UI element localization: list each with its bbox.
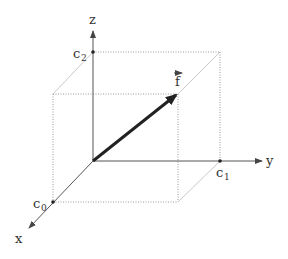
label-c2: c 2 bbox=[73, 46, 87, 63]
label-f: f bbox=[174, 73, 182, 89]
svg-text:1: 1 bbox=[224, 172, 230, 182]
svg-text:0: 0 bbox=[41, 203, 47, 213]
z-axis-label: z bbox=[89, 12, 96, 27]
svg-text:c: c bbox=[33, 196, 40, 211]
vector-f bbox=[93, 95, 176, 161]
svg-text:c: c bbox=[216, 165, 223, 180]
label-c0: c 0 bbox=[33, 196, 47, 213]
point-c0 bbox=[51, 200, 55, 204]
point-c1 bbox=[218, 159, 222, 163]
label-c1: c 1 bbox=[216, 165, 230, 182]
y-axis-label: y bbox=[265, 153, 274, 168]
svg-text:c: c bbox=[73, 46, 80, 61]
coordinate-diagram: z y x c 2 c 1 c 0 f bbox=[0, 0, 288, 259]
svg-text:2: 2 bbox=[81, 53, 87, 63]
point-c2 bbox=[91, 50, 95, 54]
x-axis bbox=[29, 161, 93, 228]
svg-text:f: f bbox=[175, 74, 181, 89]
x-axis-label: x bbox=[15, 231, 23, 246]
